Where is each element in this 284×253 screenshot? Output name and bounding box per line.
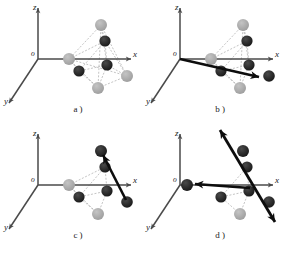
axis-line-y: [151, 59, 180, 103]
axis-line-y: [151, 185, 180, 229]
origin-label: o: [31, 49, 35, 58]
atoms: [205, 19, 275, 94]
four-panel-crystal-vibration-diagram: zxyoa )zxyob )zxyoc )zxyod ): [0, 0, 284, 253]
atom-black-right: [121, 196, 133, 208]
axis-label-x: x: [274, 175, 279, 185]
atom-black-top: [95, 145, 107, 157]
axis-y: y: [145, 185, 180, 232]
atom-black-lower: [73, 65, 84, 76]
atom-black-right: [263, 70, 275, 82]
bond: [69, 41, 105, 59]
atom-gray-top: [237, 19, 249, 31]
axis-label-x: x: [132, 49, 137, 59]
atom-black-upper: [241, 35, 252, 46]
atom-gray-left: [205, 53, 217, 65]
axis-x: x: [180, 49, 279, 61]
shear-arrow-diagonal: [220, 130, 275, 222]
atom-black-lower: [73, 191, 84, 202]
axis-label-z: z: [32, 128, 37, 138]
atoms: [181, 145, 275, 220]
atom-black-lower: [215, 191, 226, 202]
axes: zxy: [145, 128, 279, 232]
origin-label: o: [173, 175, 177, 184]
atom-gray-bottom: [92, 82, 104, 94]
axis-label-y: y: [3, 96, 8, 106]
axis-line-y: [9, 185, 38, 229]
panel-caption-a: a ): [73, 104, 82, 114]
axis-x: x: [38, 49, 137, 61]
origin-label: o: [31, 175, 35, 184]
axis-line-y: [9, 59, 38, 103]
axis-label-z: z: [174, 128, 179, 138]
panel-a: zxyoa ): [3, 2, 137, 114]
axis-label-z: z: [174, 2, 179, 12]
bond: [79, 41, 105, 71]
atom-gray-bottom: [92, 208, 104, 220]
axis-label-x: x: [274, 49, 279, 59]
atom-black-mid: [101, 185, 112, 196]
atom-black-top: [237, 145, 249, 157]
bond: [211, 25, 243, 59]
atom-black-origin: [181, 179, 193, 191]
panel-b: zxyob ): [145, 2, 279, 114]
bond: [98, 25, 101, 88]
axis-label-y: y: [145, 222, 150, 232]
bond: [69, 25, 101, 59]
atom-black-mid: [101, 59, 112, 70]
axis-label-x: x: [132, 175, 137, 185]
cluster-bonds: [211, 25, 249, 88]
panel-caption-d: d ): [215, 230, 225, 240]
axis-y: y: [3, 59, 38, 106]
bond: [221, 167, 247, 197]
panel-c: zxyoc ): [3, 128, 137, 240]
cluster-bonds: [69, 167, 107, 214]
axis-y: y: [145, 59, 180, 106]
atom-gray-left: [63, 53, 75, 65]
axis-label-y: y: [3, 222, 8, 232]
panel-d: zxyod ): [145, 128, 279, 240]
atom-gray-bottom: [234, 82, 246, 94]
shear-arrow-diagonal-shaft: [220, 130, 275, 222]
atom-gray-top: [95, 19, 107, 31]
bond: [240, 25, 243, 88]
arrows: [195, 130, 275, 222]
axis-label-y: y: [145, 96, 150, 106]
axis-y: y: [3, 185, 38, 232]
panel-caption-b: b ): [215, 104, 225, 114]
bond: [211, 41, 247, 59]
panel-caption-c: c ): [73, 230, 82, 240]
atom-black-mid: [243, 59, 254, 70]
atom-black-upper: [99, 35, 110, 46]
axis-x: x: [38, 175, 137, 187]
origin-label: o: [173, 49, 177, 58]
axis-label-z: z: [32, 2, 37, 12]
atom-gray-left: [63, 179, 75, 191]
atom-gray-bottom: [234, 208, 246, 220]
atoms: [63, 145, 133, 220]
bond: [69, 167, 105, 185]
atom-gray-right: [121, 70, 133, 82]
atoms: [63, 19, 133, 94]
bond: [221, 41, 247, 71]
bond: [79, 167, 105, 197]
cluster-bonds: [69, 25, 127, 88]
